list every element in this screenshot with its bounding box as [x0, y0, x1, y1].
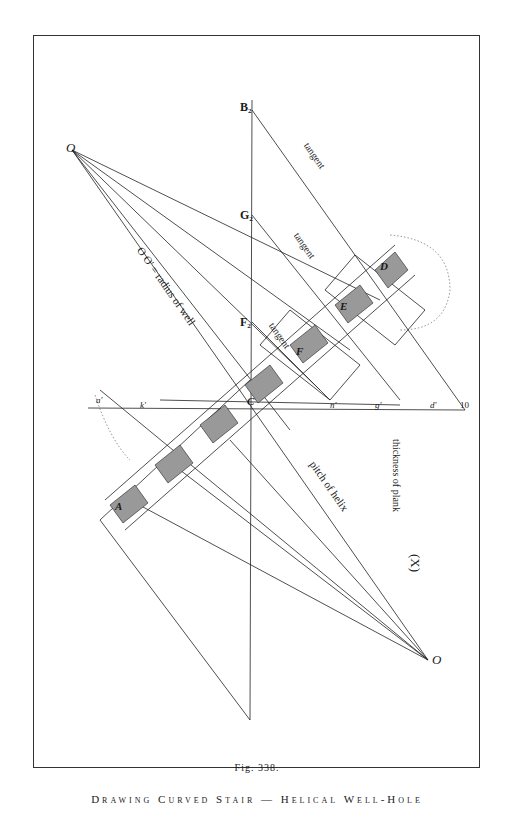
label-E: E [340, 300, 347, 312]
label-F: F [296, 345, 303, 357]
label-C: C [247, 395, 254, 407]
figure-label: Fig. 338. [0, 762, 514, 773]
label-thickness: thickness of plank [391, 439, 402, 512]
label-g6: g' [375, 400, 381, 410]
label-O-top: O [66, 140, 75, 156]
label-10: 10 [460, 400, 469, 410]
label-d7: d' [430, 400, 436, 410]
label-n5: n' [330, 400, 336, 410]
label-D: D [380, 260, 388, 272]
label-a1: a' [96, 395, 102, 405]
label-F2: F₂ [240, 315, 251, 330]
label-A: A [115, 500, 122, 512]
label-G2: G₂ [240, 208, 253, 223]
figure-caption: Drawing Curved Stair — Helical Well-Hole [0, 793, 514, 805]
label-X: (X) [407, 554, 423, 572]
label-O-bottom: O [432, 652, 441, 668]
label-k2: k' [140, 400, 146, 410]
helix-geometry-diagram [0, 0, 514, 839]
label-B2: B₂ [240, 100, 252, 115]
